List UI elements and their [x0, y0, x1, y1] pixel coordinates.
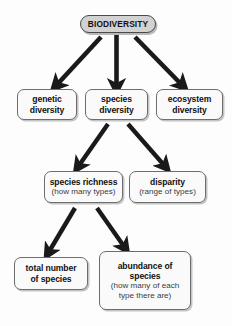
- node-total-number-line2: of species: [30, 274, 71, 284]
- node-ecosystem-diversity-line1: ecosystem: [168, 94, 212, 104]
- node-ecosystem-diversity: ecosystem diversity: [156, 89, 223, 120]
- node-disparity-title: disparity: [150, 177, 185, 187]
- biodiversity-diagram: BIODIVERSITY genetic diversity species d…: [0, 0, 232, 326]
- node-species-diversity: species diversity: [85, 89, 148, 120]
- node-total-number-line1: total number: [26, 263, 77, 273]
- node-species-diversity-line1: species: [101, 94, 132, 104]
- edge-biodiversity-ecosystem: [135, 37, 180, 83]
- node-genetic-diversity: genetic diversity: [17, 89, 77, 120]
- node-disparity-subtitle: (range of types): [139, 187, 196, 197]
- edge-species-disparity: [128, 124, 163, 164]
- node-species-diversity-line2: diversity: [99, 105, 133, 115]
- node-abundance-subtitle-line1: (how many of each: [111, 281, 179, 291]
- node-biodiversity: BIODIVERSITY: [80, 15, 156, 33]
- node-species-richness-subtitle: (how many types): [52, 187, 116, 197]
- node-abundance-line1: abundance of: [118, 261, 173, 271]
- node-abundance-line2: species: [130, 271, 161, 281]
- node-abundance-of-species: abundance of species (how many of each t…: [99, 251, 191, 310]
- node-genetic-diversity-line2: diversity: [30, 105, 64, 115]
- node-genetic-diversity-line1: genetic: [32, 94, 61, 104]
- node-species-richness: species richness (how many types): [44, 171, 123, 203]
- node-biodiversity-label: BIODIVERSITY: [88, 19, 148, 29]
- edge-biodiversity-genetic: [59, 37, 102, 83]
- edge-species-richness: [80, 124, 108, 164]
- edge-richness-abundance: [97, 208, 123, 245]
- node-abundance-subtitle-line2: type there are): [119, 291, 172, 301]
- node-total-number-of-species: total number of species: [14, 257, 88, 290]
- node-species-richness-title: species richness: [50, 177, 118, 187]
- node-ecosystem-diversity-line2: diversity: [172, 105, 206, 115]
- node-disparity: disparity (range of types): [129, 171, 206, 203]
- edge-richness-total: [50, 208, 75, 250]
